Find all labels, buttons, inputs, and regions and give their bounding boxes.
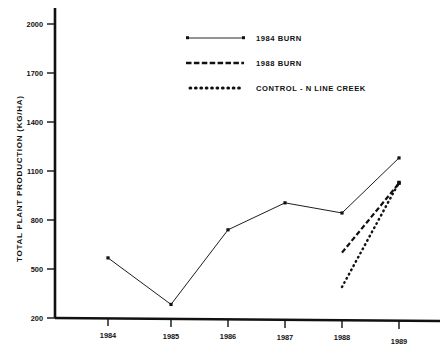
y-ticklabel-500: 500: [31, 265, 43, 274]
data-point-marker: [283, 201, 286, 204]
data-point-marker: [397, 156, 400, 159]
data-point-marker: [226, 228, 229, 231]
series-line-0: [108, 158, 399, 305]
y-axis-ticks: 2000 1700 1400 1100 800 500 200: [27, 20, 55, 323]
data-point-marker: [106, 256, 109, 259]
y-ticklabel-800: 800: [31, 216, 43, 225]
legend-label-1988-burn: 1988 BURN: [256, 59, 302, 68]
x-axis-ticks: 1984 1985 1986 1987 1988 1989: [100, 318, 407, 346]
x-ticklabel-1989: 1989: [391, 337, 407, 346]
data-point-marker: [169, 303, 172, 306]
line-chart: TOTAL PLANT PRODUCTION (KG/HA) 2000 1700…: [0, 0, 443, 353]
legend-marker-left-1984: [186, 36, 189, 39]
data-point-marker: [340, 211, 343, 214]
y-ticklabel-200: 200: [31, 314, 43, 323]
legend-marker-right-1984: [242, 36, 245, 39]
data-point-marker: [397, 181, 400, 184]
y-ticklabel-1100: 1100: [27, 167, 43, 176]
x-axis-line: [55, 318, 440, 321]
y-ticklabel-2000: 2000: [27, 20, 43, 29]
figure-container: TOTAL PLANT PRODUCTION (KG/HA) 2000 1700…: [0, 0, 443, 353]
x-ticklabel-1988: 1988: [334, 333, 350, 342]
y-axis-label: TOTAL PLANT PRODUCTION (KG/HA): [15, 95, 24, 262]
x-ticklabel-1986: 1986: [220, 332, 236, 341]
y-ticklabel-1700: 1700: [27, 69, 43, 78]
series-line-2: [342, 182, 399, 287]
legend-label-1984-burn: 1984 BURN: [256, 34, 302, 43]
x-ticklabel-1985: 1985: [163, 332, 179, 341]
y-ticklabel-1400: 1400: [27, 118, 43, 127]
chart-legend: 1984 BURN 1988 BURN CONTROL - N LINE CRE…: [186, 34, 366, 93]
legend-label-control: CONTROL - N LINE CREEK: [256, 84, 366, 93]
x-ticklabel-1984: 1984: [100, 331, 117, 340]
series-line-1: [342, 183, 399, 252]
series-layer: [106, 156, 400, 306]
x-ticklabel-1987: 1987: [277, 333, 293, 342]
